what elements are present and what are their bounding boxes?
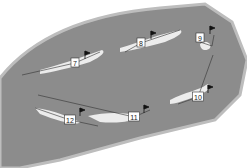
svg-text:9: 9 — [198, 35, 202, 42]
svg-text:12: 12 — [66, 117, 74, 124]
svg-text:10: 10 — [194, 94, 202, 101]
svg-text:7: 7 — [73, 60, 77, 67]
svg-text:11: 11 — [130, 114, 137, 121]
svg-text:8: 8 — [139, 40, 143, 47]
golf-course-map[interactable]: 789101112 — [0, 0, 247, 168]
course-svg: 789101112 — [0, 0, 247, 168]
